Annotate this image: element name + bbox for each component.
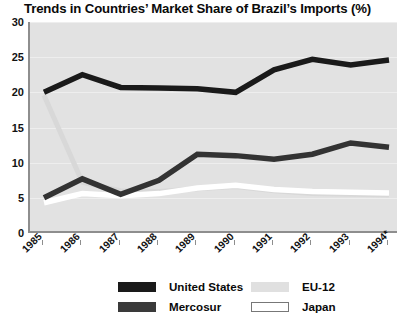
series-lines — [30, 22, 397, 233]
y-axis-tick-label: 0 — [18, 227, 24, 239]
legend-swatch — [251, 282, 289, 292]
x-axis-tick-mark — [310, 240, 311, 245]
y-axis-tick-labels: 051015202530 — [0, 18, 28, 240]
legend-label: Mercosur — [169, 300, 221, 313]
legend-label: EU-12 — [302, 280, 335, 293]
legend-item[interactable]: United States — [118, 280, 243, 293]
y-axis-tick-label: 10 — [12, 157, 24, 169]
legend-label: United States — [169, 280, 243, 293]
legend-swatch — [118, 302, 156, 312]
x-axis-tick-mark — [80, 240, 81, 245]
legend-label: Japan — [302, 300, 336, 313]
y-axis-tick-label: 25 — [12, 51, 24, 63]
chart-title: Trends in Countries’ Market Share of Bra… — [24, 1, 407, 16]
plot-area — [28, 22, 397, 233]
legend-item[interactable]: Mercosur — [118, 300, 221, 313]
x-axis-tick-mark — [272, 240, 273, 245]
x-axis-tick-labels: 1985198619871988198919901991199219931994… — [0, 240, 407, 280]
chart-figure: Trends in Countries’ Market Share of Bra… — [0, 0, 407, 323]
y-axis-tick-label: 15 — [12, 122, 24, 134]
x-axis-tick-mark — [42, 240, 43, 245]
legend-item[interactable]: Japan — [251, 300, 336, 313]
x-axis-tick-mark — [157, 240, 158, 245]
x-axis-tick-mark — [387, 240, 388, 245]
legend-swatch — [251, 302, 289, 312]
y-axis-tick-label: 30 — [12, 16, 24, 28]
y-axis-tick-label: 20 — [12, 86, 24, 98]
series-line — [44, 59, 389, 92]
chart-legend: United StatesMercosurEU-12Japan — [0, 278, 407, 323]
plot-wrapper: 051015202530 — [0, 18, 407, 240]
x-axis-tick-mark — [195, 240, 196, 245]
legend-item[interactable]: EU-12 — [251, 280, 335, 293]
legend-swatch — [118, 282, 156, 292]
y-axis-tick-label: 5 — [18, 192, 24, 204]
